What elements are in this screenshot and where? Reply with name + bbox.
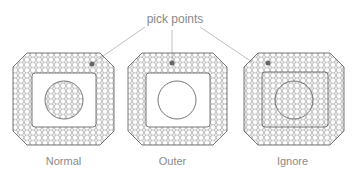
panel-normal bbox=[13, 53, 114, 145]
pick-point-icon bbox=[90, 62, 95, 67]
panel-label-outer: Outer bbox=[122, 155, 223, 167]
panel-outer bbox=[128, 53, 227, 145]
callout-label: pick points bbox=[120, 12, 230, 26]
panel-label-normal: Normal bbox=[13, 155, 114, 167]
panel-label-ignore: Ignore bbox=[242, 155, 343, 167]
panel-ignore bbox=[244, 53, 344, 145]
pick-point-icon bbox=[266, 61, 271, 66]
pick-point-icon bbox=[170, 61, 175, 66]
